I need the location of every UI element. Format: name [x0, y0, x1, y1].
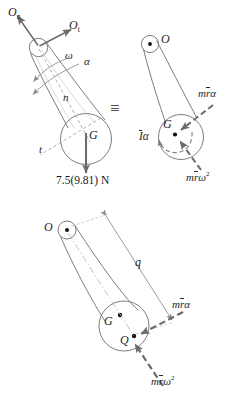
q-extension-top	[72, 214, 108, 226]
reaction-tangential-arrow	[40, 30, 72, 47]
alpha-label: α	[84, 56, 90, 67]
figure-root: On Ot ω α n t G 7.5(9.81) N ≡ O G Iα mrα…	[0, 0, 240, 402]
kinetic-pivot-label: O	[161, 33, 170, 45]
kinetic-normal-force-label: mrω2	[186, 171, 210, 183]
omega-label: ω	[65, 50, 73, 61]
kinetic-normal-force-arrow	[180, 141, 201, 170]
axis-t-label: t	[39, 144, 42, 155]
kinetic-center-of-mass-dot	[173, 132, 177, 136]
kinetic-body-outline	[141, 35, 203, 159]
resultant-point-q-label: Q	[120, 334, 129, 346]
kinetic-couple-label: Iα	[139, 131, 149, 143]
reaction-normal-label: On	[8, 6, 21, 21]
kinetic-center-of-mass-label: G	[163, 118, 172, 130]
kinetic-tangential-force-label: mrα	[198, 88, 216, 99]
resultant-center-line	[68, 233, 134, 336]
resultant-pivot-dot	[65, 228, 69, 232]
kinetic-tangential-force-arrow	[181, 105, 213, 130]
resultant-body-outline	[58, 221, 149, 351]
resultant-pivot-label: O	[44, 221, 53, 233]
weight-label: 7.5(9.81) N	[56, 174, 109, 186]
resultant-tangential-force-label: mrα	[172, 299, 190, 310]
q-extension-bottom	[136, 322, 174, 334]
resultant-normal-force-label: mrω2	[151, 375, 175, 387]
q-distance-label: q	[135, 256, 141, 268]
equivalence-symbol: ≡	[110, 99, 120, 119]
resultant-center-of-mass-label: G	[104, 315, 113, 327]
reaction-tangential-label: Ot	[69, 19, 80, 34]
alpha-arc	[33, 64, 79, 95]
kinetic-pivot-dot	[148, 42, 152, 46]
axis-n-label: n	[63, 92, 69, 103]
fbd-center-of-mass-label: G	[89, 129, 98, 141]
